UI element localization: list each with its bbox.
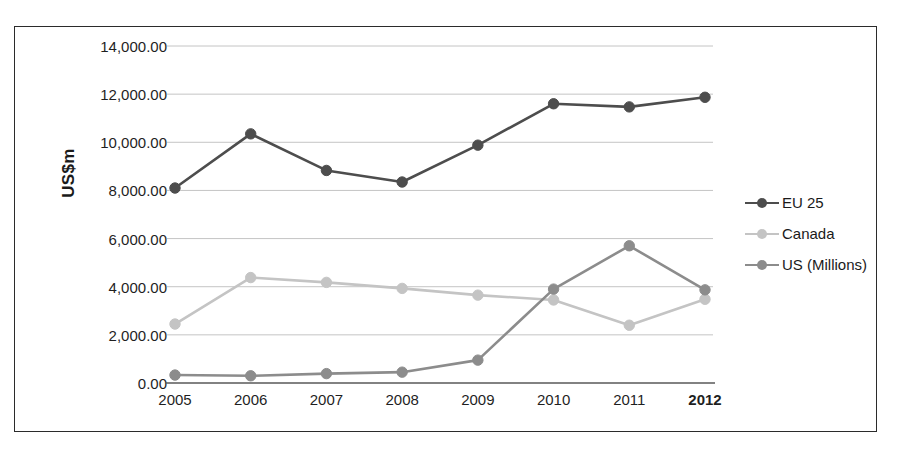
- x-axis-tick-label: 2007: [310, 391, 343, 408]
- chart-area: US$m 0.002,000.004,000.006,000.008,000.0…: [15, 27, 876, 431]
- plot-area: [175, 46, 705, 383]
- data-point: [624, 320, 634, 330]
- data-point: [548, 284, 558, 294]
- y-axis-tick-label: 4,000.00: [27, 278, 167, 295]
- data-point: [624, 241, 634, 251]
- data-point: [397, 283, 407, 293]
- y-axis-tick-label: 0.00: [27, 375, 167, 392]
- data-point: [700, 92, 710, 102]
- x-axis-tick-label: 2010: [537, 391, 570, 408]
- data-point: [321, 368, 331, 378]
- y-axis-tick-label: 8,000.00: [27, 182, 167, 199]
- data-point: [246, 129, 256, 139]
- legend-marker-icon: [745, 197, 779, 209]
- y-axis-tick-label: 10,000.00: [27, 134, 167, 151]
- data-point: [700, 285, 710, 295]
- legend-item-label: EU 25: [782, 194, 824, 211]
- data-point: [548, 99, 558, 109]
- data-point: [624, 102, 634, 112]
- y-axis-tick-label: 2,000.00: [27, 326, 167, 343]
- legend-item-label: Canada: [782, 225, 835, 242]
- data-point: [397, 367, 407, 377]
- legend-item-canada[interactable]: Canada: [745, 218, 880, 249]
- legend-item-us-millions[interactable]: US (Millions): [745, 249, 880, 280]
- data-point: [170, 183, 180, 193]
- data-point: [170, 319, 180, 329]
- data-point: [321, 165, 331, 175]
- x-axis-tick-labels: 20052006200720082009201020112012: [175, 391, 705, 421]
- series-layer: [170, 92, 710, 381]
- data-point: [246, 272, 256, 282]
- y-axis-tick-label: 12,000.00: [27, 86, 167, 103]
- legend-item-label: US (Millions): [782, 256, 867, 273]
- chart-legend: EU 25CanadaUS (Millions): [745, 187, 880, 280]
- legend-marker-icon: [745, 259, 779, 271]
- data-point: [548, 295, 558, 305]
- data-point: [246, 371, 256, 381]
- x-axis-tick-label: 2005: [158, 391, 191, 408]
- y-axis-tick-label: 14,000.00: [27, 38, 167, 55]
- data-point: [473, 355, 483, 365]
- line-chart-svg: [175, 46, 705, 383]
- series-canada: [170, 272, 710, 330]
- y-axis-tick-label: 6,000.00: [27, 230, 167, 247]
- x-axis-tick-label: 2011: [613, 391, 645, 408]
- chart-frame: US$m 0.002,000.004,000.006,000.008,000.0…: [14, 26, 877, 432]
- data-point: [473, 140, 483, 150]
- x-axis-tick-label: 2006: [234, 391, 267, 408]
- data-point: [397, 177, 407, 187]
- legend-item-eu-25[interactable]: EU 25: [745, 187, 880, 218]
- data-point: [170, 370, 180, 380]
- data-point: [321, 277, 331, 287]
- y-axis-tick-labels: 0.002,000.004,000.006,000.008,000.0010,0…: [15, 46, 167, 383]
- series-us-millions: [170, 241, 710, 381]
- legend-marker-icon: [745, 228, 779, 240]
- data-point: [700, 294, 710, 304]
- x-axis-tick-label: 2012: [688, 391, 721, 408]
- x-axis-tick-label: 2008: [385, 391, 418, 408]
- data-point: [473, 290, 483, 300]
- x-axis-tick-label: 2009: [461, 391, 494, 408]
